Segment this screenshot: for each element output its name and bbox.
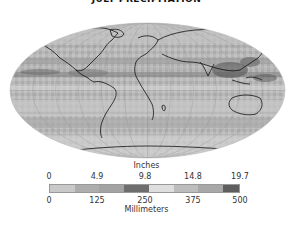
legend-segment (149, 185, 174, 192)
legend-color-bar (49, 184, 240, 193)
inches-tick-4: 19.7 (231, 172, 249, 181)
legend-segment (99, 185, 124, 192)
mm-tick-4: 500 (232, 196, 247, 205)
legend-segment (174, 185, 199, 192)
mm-tick-0: 0 (46, 196, 51, 205)
legend-millimeters-label: Millimeters (0, 205, 293, 214)
mm-tick-1: 125 (89, 196, 104, 205)
legend-segment (124, 185, 149, 192)
map-surface (0, 0, 293, 229)
world-precipitation-map (0, 0, 293, 229)
mm-tick-2: 250 (137, 196, 152, 205)
legend-segment (198, 185, 223, 192)
mm-tick-3: 375 (185, 196, 200, 205)
legend-segment (223, 185, 239, 192)
inches-tick-0: 0 (46, 172, 51, 181)
inches-tick-2: 9.8 (139, 172, 152, 181)
inches-tick-1: 4.9 (91, 172, 104, 181)
legend-inches-label: Inches (0, 161, 293, 170)
legend-segment (75, 185, 100, 192)
legend-segment (50, 185, 75, 192)
inches-tick-3: 14.8 (184, 172, 202, 181)
